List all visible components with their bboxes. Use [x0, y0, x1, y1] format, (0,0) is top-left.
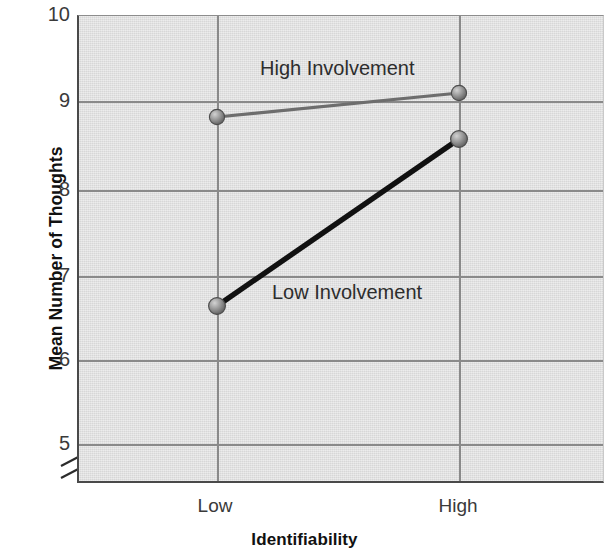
line-chart: Mean Number of Thoughts 10 9 8 7 6 5	[0, 0, 609, 555]
series-layer	[79, 16, 604, 483]
data-point-high-involvement-high	[451, 85, 466, 100]
x-tick-label-high: High	[378, 495, 538, 517]
x-axis-title: Identifiability	[0, 530, 609, 550]
y-tick-label-6: 6	[28, 349, 70, 369]
y-tick-label-5: 5	[28, 433, 70, 453]
series-high-involvement	[209, 85, 466, 124]
x-tick-label-low: Low	[135, 495, 295, 517]
data-point-low-involvement-low	[209, 298, 226, 315]
y-tick-label-10: 10	[28, 4, 70, 24]
data-point-low-involvement-high	[451, 131, 468, 148]
series-label-low-involvement: Low Involvement	[272, 281, 422, 304]
data-point-high-involvement-low	[209, 109, 224, 124]
plot-area: High Involvement Low Involvement	[77, 15, 604, 483]
y-tick-label-7: 7	[28, 265, 70, 285]
y-tick-label-8: 8	[28, 179, 70, 199]
y-tick-label-9: 9	[28, 90, 70, 110]
series-label-high-involvement: High Involvement	[260, 57, 415, 80]
series-high-involvement-line	[217, 93, 459, 117]
